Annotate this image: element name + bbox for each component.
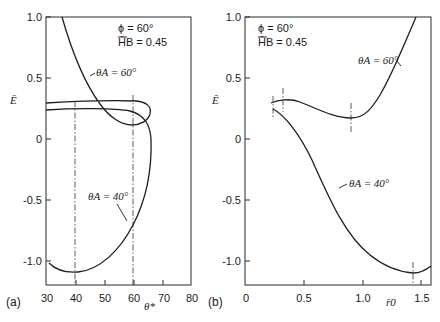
leader-line xyxy=(117,204,127,221)
x-tick-label: 0.5 xyxy=(296,292,311,304)
panel-b-frame xyxy=(245,17,431,285)
x-tick-label: 30 xyxy=(41,292,53,304)
panel-label-a: (a) xyxy=(6,295,21,309)
leader-line xyxy=(90,73,95,76)
leader-line xyxy=(339,184,347,188)
y-tick-label: 0.5 xyxy=(226,72,241,84)
x-tick-label: 50 xyxy=(99,292,111,304)
curve-theta-a-40 xyxy=(273,109,431,273)
panel-b: 1.0 0.5 0 -0.5 -1.0 Ē 0 0.5 1.0 1.5 r̄0 xyxy=(208,11,431,309)
figure: 1.0 0.5 0 -0.5 -1.0 Ē 30 40 50 60 70 80 … xyxy=(0,0,440,322)
x-tick-label: 40 xyxy=(70,292,82,304)
y-tick-label: -1.0 xyxy=(222,255,241,267)
y-tick-label: -0.5 xyxy=(23,194,42,206)
label-theta-a-60: θA = 60° xyxy=(358,54,399,66)
y-axis-label: Ē xyxy=(211,94,219,106)
y-tick-label: 0 xyxy=(36,133,42,145)
panel-b-x-axis: 0 0.5 1.0 1.5 r̄0 xyxy=(243,280,430,308)
panel-a-y-axis: 1.0 0.5 0 -0.5 -1.0 Ē xyxy=(9,11,51,267)
x-tick-label: 1.5 xyxy=(414,292,429,304)
y-tick-label: 1.0 xyxy=(226,11,241,23)
y-tick-label: 1.0 xyxy=(27,11,42,23)
panel-a-frame xyxy=(46,17,191,285)
y-axis-label: Ē xyxy=(9,94,17,106)
label-theta-a-60: θA = 60° xyxy=(96,66,137,78)
x-tick-label: 1.0 xyxy=(355,292,370,304)
x-tick-label: 60 xyxy=(128,292,140,304)
label-theta-a-40: θA = 40° xyxy=(349,177,390,189)
panel-b-y-axis: 1.0 0.5 0 -0.5 -1.0 Ē xyxy=(211,11,250,267)
annotation-phi: ϕ = 60° xyxy=(118,22,153,34)
y-tick-label: -0.5 xyxy=(222,194,241,206)
panel-label-b: (b) xyxy=(208,295,223,309)
x-tick-label: 0 xyxy=(243,292,249,304)
x-axis-label: r̄0 xyxy=(386,296,396,308)
label-theta-a-40: θA = 40° xyxy=(88,190,129,202)
x-tick-label: 80 xyxy=(186,292,198,304)
annotation-hb: H̄B = 0.45 xyxy=(258,36,307,48)
annotation-hb: H̄B = 0.45 xyxy=(118,36,167,48)
x-tick-label: 70 xyxy=(158,292,170,304)
y-tick-label: 0.5 xyxy=(27,72,42,84)
annotation-phi: ϕ = 60° xyxy=(258,22,293,34)
x-axis-label: θ* xyxy=(144,300,155,312)
y-tick-label: -1.0 xyxy=(23,255,42,267)
panel-a: 1.0 0.5 0 -0.5 -1.0 Ē 30 40 50 60 70 80 … xyxy=(6,11,198,312)
y-tick-label: 0 xyxy=(235,133,241,145)
